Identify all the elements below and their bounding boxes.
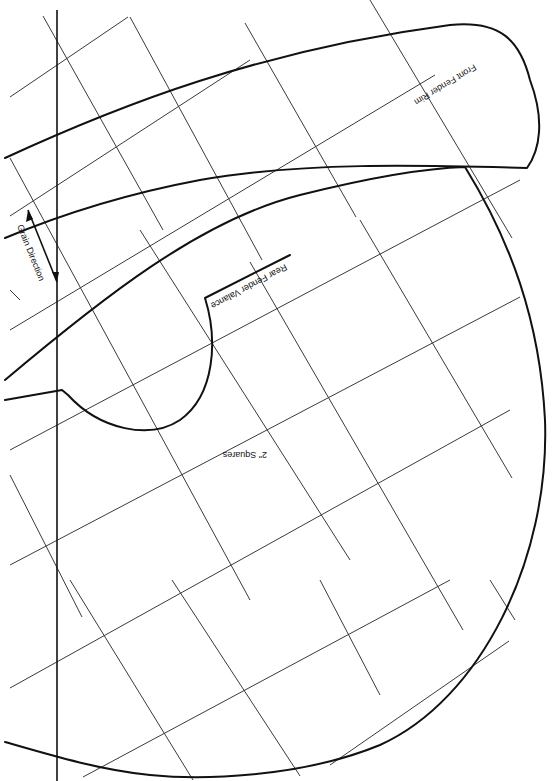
wheel-arch-outline: [5, 255, 290, 430]
grid-line: [70, 580, 193, 780]
rear-fender-valance-outline: [5, 167, 545, 777]
front-fender-rim-label: Front Fender Rim: [413, 62, 479, 107]
grid-line: [10, 17, 128, 97]
grid-line: [10, 60, 250, 216]
grid-line: [43, 16, 163, 230]
grid-line: [172, 580, 300, 776]
grid-scale-label: 2" Squares: [222, 450, 267, 460]
grid-line: [360, 220, 512, 478]
grid-line: [10, 290, 20, 300]
arrowhead-icon: [52, 272, 59, 282]
grid-line: [250, 262, 463, 630]
rear-fender-valance-label: Rear Fender Valance: [209, 262, 289, 311]
grid-line: [83, 580, 450, 777]
grid-2in-squares: [10, 0, 520, 780]
front-fender-rim-outline: [5, 24, 539, 238]
grid-line: [10, 297, 520, 565]
grid-line: [140, 230, 350, 560]
grid-line: [130, 17, 262, 260]
grid-line: [10, 158, 250, 600]
grid-line: [10, 75, 435, 330]
grid-line: [370, 0, 512, 238]
pattern-diagram: Front Fender Rim Rear Fender Valance Gra…: [0, 0, 554, 781]
grain-direction-label: Grain Direction: [15, 223, 47, 282]
grid-line: [320, 580, 380, 695]
grid-line: [330, 641, 509, 765]
